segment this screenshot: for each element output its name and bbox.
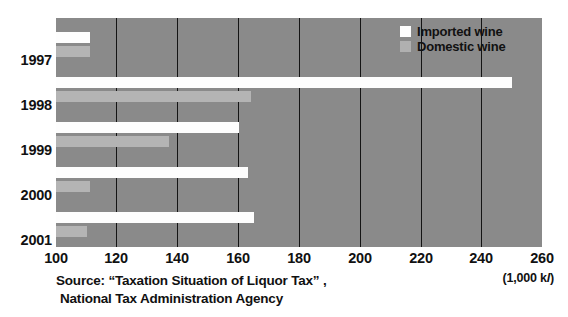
bar-domestic-1999 <box>56 136 169 147</box>
x-tick-260: 260 <box>530 250 554 266</box>
x-tick-220: 220 <box>409 250 433 266</box>
bar-imported-2001 <box>56 212 254 223</box>
legend-item-domestic: Domestic wine <box>400 39 505 53</box>
bar-domestic-2000 <box>56 181 90 192</box>
bar-domestic-1998 <box>56 91 251 102</box>
unit-label-suffix: ) <box>550 271 554 285</box>
bar-domestic-2001 <box>56 226 87 237</box>
legend-item-imported: Imported wine <box>400 24 505 38</box>
unit-label: (1,000 kl) <box>502 271 554 285</box>
y-axis-label-1999: 1999 <box>0 142 52 158</box>
y-axis-label-1997: 1997 <box>0 52 52 68</box>
gridline-200 <box>360 18 361 247</box>
source-note: Source: “Taxation Situation of Liquor Ta… <box>56 272 326 308</box>
x-tick-200: 200 <box>348 250 372 266</box>
bar-imported-1998 <box>56 77 512 88</box>
legend: Imported wine Domestic wine <box>400 24 505 54</box>
legend-swatch-domestic-icon <box>400 41 411 52</box>
y-axis-label-2000: 2000 <box>0 187 52 203</box>
x-tick-240: 240 <box>469 250 493 266</box>
unit-label-prefix: (1,000 k <box>502 271 546 285</box>
x-tick-120: 120 <box>104 250 128 266</box>
x-tick-140: 140 <box>165 250 189 266</box>
legend-label-domestic: Domestic wine <box>417 40 505 53</box>
bar-imported-2000 <box>56 167 248 178</box>
source-note-line2: National Tax Administration Agency <box>60 290 326 308</box>
x-tick-160: 160 <box>226 250 250 266</box>
y-axis-label-2001: 2001 <box>0 232 52 248</box>
x-tick-180: 180 <box>287 250 311 266</box>
source-note-line1: Source: “Taxation Situation of Liquor Ta… <box>56 273 326 288</box>
y-axis-label-1998: 1998 <box>0 97 52 113</box>
legend-label-imported: Imported wine <box>417 25 503 38</box>
bar-domestic-1997 <box>56 46 90 57</box>
chart-figure: 1997 1998 1999 2000 2001 Imported wine <box>0 0 568 317</box>
y-axis-category-labels: 1997 1998 1999 2000 2001 <box>0 18 52 247</box>
x-tick-100: 100 <box>44 250 68 266</box>
legend-swatch-imported-icon <box>400 26 411 37</box>
gridline-180 <box>299 18 300 247</box>
x-axis: 100 120 140 160 180 200 220 240 260 <box>56 250 542 270</box>
bar-imported-1999 <box>56 122 239 133</box>
bar-imported-1997 <box>56 32 90 43</box>
